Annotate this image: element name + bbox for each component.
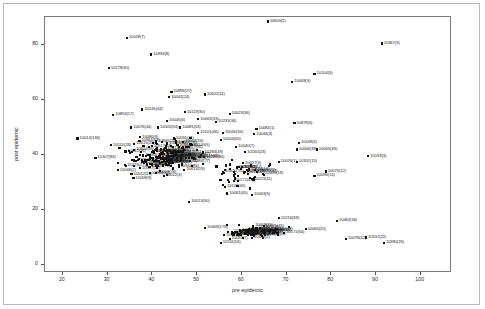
data-point-label: 10160(23) [247, 150, 265, 154]
data-point-cluster [224, 169, 226, 171]
data-point [117, 169, 119, 171]
data-point-label: 10846(85) [169, 158, 187, 162]
data-point-label: 10159(3) [370, 154, 386, 158]
data-point-cluster [233, 180, 235, 182]
x-tick-mark [196, 272, 197, 275]
y-tick-mark [41, 154, 44, 155]
data-point-cluster [139, 167, 141, 169]
data-point-label: 10994(8) [153, 52, 169, 56]
data-point-label: 10390(25) [386, 240, 404, 244]
data-point-cluster [222, 184, 224, 186]
x-tick-mark [420, 272, 421, 275]
data-point [170, 91, 172, 93]
data-point [184, 111, 186, 113]
data-point-label: 10216(59) [281, 216, 299, 220]
data-point-cluster [269, 163, 271, 165]
data-point-label: 10110(28) [113, 143, 131, 147]
data-point-cluster [185, 146, 187, 148]
data-point-cluster [124, 150, 126, 152]
data-point [345, 238, 347, 240]
data-point-label: 10499(19) [265, 171, 283, 175]
data-point-cluster [133, 143, 135, 145]
data-point-cluster [159, 170, 161, 172]
data-point-label: 10517(16) [142, 166, 160, 170]
data-point-label: 10879(6) [296, 121, 312, 125]
data-point-label: 10084(1) [258, 126, 274, 130]
x-tick-mark [151, 272, 152, 275]
data-point-cluster [170, 145, 172, 147]
data-point-cluster [166, 160, 168, 162]
data-point-cluster [251, 178, 253, 180]
data-point-label: 10065(20) [308, 227, 326, 231]
data-point-cluster [163, 175, 165, 177]
data-point-label: 10615(25) [136, 141, 154, 145]
x-tick-mark [241, 272, 242, 275]
data-point [255, 128, 257, 130]
data-point [381, 42, 383, 44]
data-point-label: 10893(27) [173, 89, 191, 93]
data-point-cluster [128, 150, 130, 152]
data-point-label: 10481(53) [182, 125, 200, 129]
data-point-label: 10044(3) [256, 132, 272, 136]
data-point-cluster [225, 164, 227, 166]
x-tick-mark [330, 272, 331, 275]
data-point-label: 10065(39) [319, 147, 337, 151]
data-point-label: 10537(22) [368, 235, 386, 239]
y-tick-label: 20 [32, 206, 38, 211]
data-point-cluster [221, 173, 223, 175]
data-point-cluster [233, 171, 235, 173]
data-point-cluster [165, 145, 167, 147]
data-point-label: 10160(48) [274, 227, 292, 231]
data-point-label: 10603(2) [270, 19, 286, 23]
data-point-cluster [243, 172, 245, 174]
data-point [220, 139, 222, 141]
data-point-label: 10041(24) [171, 95, 189, 99]
y-tick-mark [41, 44, 44, 45]
data-point-cluster [247, 173, 249, 175]
data-point [235, 146, 237, 148]
data-point-label: 10119(30) [187, 110, 205, 114]
data-point-label: 10178(30) [111, 66, 129, 70]
data-point [110, 144, 112, 146]
data-point-label: 10069(3) [294, 79, 310, 83]
data-point-label: 10078(42) [348, 236, 366, 240]
data-point [197, 132, 199, 134]
y-tick-mark [41, 99, 44, 100]
data-point-cluster [237, 180, 239, 182]
data-point-cluster [160, 152, 162, 154]
data-point [367, 155, 369, 157]
y-tick-mark [41, 264, 44, 265]
data-point-label: 10107(84) [97, 155, 115, 159]
scatter-plot: 2030405060708090100 020406080 10603(2)10… [0, 0, 485, 309]
data-point [296, 161, 298, 163]
data-point-cluster [234, 173, 236, 175]
data-point-cluster [193, 157, 195, 159]
data-point [305, 228, 307, 230]
data-point-label: 10008(9) [135, 176, 151, 180]
y-tick-mark [41, 209, 44, 210]
data-point-label: 10012(16) [185, 139, 203, 143]
data-point [251, 194, 253, 196]
data-point-cluster [172, 167, 174, 169]
data-point-cluster [164, 158, 166, 160]
data-point [229, 113, 231, 115]
data-point [298, 142, 300, 144]
data-point-cluster [223, 234, 225, 236]
y-axis-title: post epidemic [14, 127, 19, 160]
data-point-cluster [202, 163, 204, 165]
data-point-label: 10367(3) [384, 41, 400, 45]
data-point [226, 192, 228, 194]
data-point-label: 10095(14) [317, 173, 335, 177]
data-point-label: 10463(18) [339, 218, 357, 222]
x-tick-label: 40 [148, 277, 154, 282]
x-tick-label: 90 [372, 277, 378, 282]
data-point-label: 10045(6) [169, 118, 185, 122]
data-point-cluster [149, 172, 151, 174]
data-point-cluster [242, 237, 244, 239]
data-point-cluster [277, 234, 279, 236]
data-point-label: 10284(80) [144, 160, 162, 164]
data-point [220, 242, 222, 244]
data-point-cluster [178, 166, 180, 168]
data-point-cluster [219, 179, 221, 181]
data-point [253, 133, 255, 135]
